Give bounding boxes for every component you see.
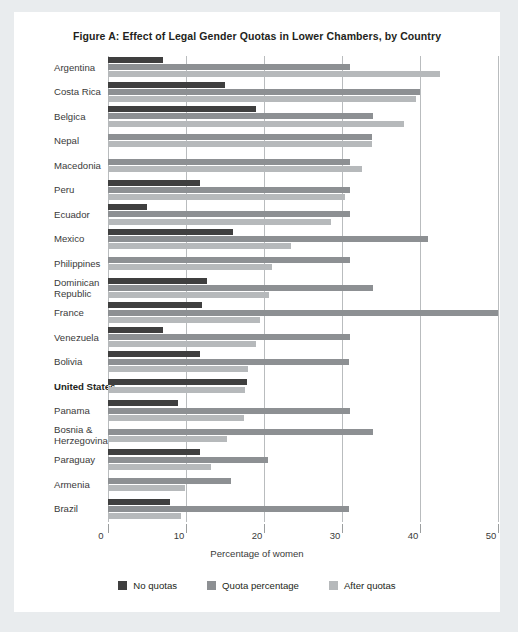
legend-swatch-icon	[207, 581, 216, 590]
bar-group	[108, 228, 498, 253]
bar-1	[108, 429, 373, 435]
bar-0	[108, 327, 163, 333]
bar-1	[108, 408, 350, 414]
bar-2	[108, 71, 440, 77]
bar-0	[108, 351, 200, 357]
bar-2	[108, 317, 260, 323]
bar-1	[108, 285, 373, 291]
bar-2	[108, 485, 185, 491]
bar-1	[108, 334, 350, 340]
bar-2	[108, 436, 227, 442]
bar-group	[108, 375, 498, 400]
bar-group	[108, 203, 498, 228]
bar-group	[108, 301, 498, 326]
tick-label-50: 50	[486, 530, 497, 541]
bar-group	[108, 277, 498, 302]
bar-1	[108, 211, 350, 217]
legend-label: No quotas	[133, 580, 177, 591]
bar-0	[108, 180, 200, 186]
bar-0	[108, 82, 225, 88]
x-axis-label: Percentage of women	[14, 548, 500, 559]
tick-label-10: 10	[174, 530, 185, 541]
bar-1	[108, 257, 350, 263]
bar-1	[108, 310, 498, 316]
category-labels: ArgentinaCosta RicaBelgicaNepalMacedonia…	[54, 56, 108, 522]
tick-mark-0	[108, 524, 109, 533]
bar-0	[108, 106, 256, 112]
legend-label: Quota percentage	[222, 580, 299, 591]
plot-area	[108, 56, 498, 522]
legend-label: After quotas	[344, 580, 396, 591]
bar-0	[108, 302, 202, 308]
bar-0	[108, 379, 247, 385]
bar-0	[108, 449, 200, 455]
bar-2	[108, 366, 248, 372]
chart-legend: No quotasQuota percentageAfter quotas	[14, 580, 500, 591]
bar-2	[108, 219, 331, 225]
bar-1	[108, 478, 231, 484]
legend-item-2[interactable]: After quotas	[329, 580, 396, 591]
bar-1	[108, 506, 349, 512]
bar-group	[108, 399, 498, 424]
bar-group	[108, 497, 498, 522]
gridline-50	[498, 56, 499, 522]
bar-group	[108, 154, 498, 179]
tick-label-40: 40	[408, 530, 419, 541]
bar-group	[108, 81, 498, 106]
bar-group	[108, 105, 498, 130]
bar-2	[108, 264, 272, 270]
bar-2	[108, 464, 211, 470]
bar-1	[108, 236, 428, 242]
tick-mark-30	[342, 524, 343, 533]
bar-2	[108, 415, 244, 421]
x-axis-ticks: 01020304050	[108, 524, 498, 540]
bar-1	[108, 113, 373, 119]
legend-swatch-icon	[118, 581, 127, 590]
bar-2	[108, 513, 181, 519]
bar-1	[108, 64, 350, 70]
bar-group	[108, 424, 498, 449]
tick-mark-50	[498, 524, 499, 533]
bar-2	[108, 141, 372, 147]
tick-label-30: 30	[330, 530, 341, 541]
legend-swatch-icon	[329, 581, 338, 590]
bar-group	[108, 473, 498, 498]
bar-group	[108, 130, 498, 155]
bar-0	[108, 499, 170, 505]
bar-0	[108, 204, 147, 210]
tick-label-0: 0	[98, 530, 103, 541]
bar-group	[108, 448, 498, 473]
bar-1	[108, 159, 350, 165]
tick-label-20: 20	[252, 530, 263, 541]
bar-2	[108, 292, 269, 298]
bar-2	[108, 387, 245, 393]
tick-mark-40	[420, 524, 421, 533]
bar-1	[108, 187, 350, 193]
tick-mark-10	[186, 524, 187, 533]
tick-mark-20	[264, 524, 265, 533]
bar-group	[108, 252, 498, 277]
bar-2	[108, 194, 345, 200]
bar-1	[108, 89, 420, 95]
bar-group	[108, 56, 498, 81]
chart-panel: Figure A: Effect of Legal Gender Quotas …	[14, 12, 500, 612]
bar-1	[108, 134, 372, 140]
legend-item-1[interactable]: Quota percentage	[207, 580, 299, 591]
bar-2	[108, 166, 362, 172]
chart-title: Figure A: Effect of Legal Gender Quotas …	[14, 30, 500, 42]
bar-2	[108, 121, 404, 127]
bar-0	[108, 400, 178, 406]
bar-2	[108, 341, 256, 347]
bar-1	[108, 457, 268, 463]
bar-0	[108, 278, 207, 284]
bar-2	[108, 96, 416, 102]
bar-0	[108, 229, 233, 235]
bar-0	[108, 57, 163, 63]
bar-2	[108, 243, 291, 249]
bar-1	[108, 359, 349, 365]
legend-item-0[interactable]: No quotas	[118, 580, 177, 591]
bar-group	[108, 350, 498, 375]
bar-group	[108, 326, 498, 351]
bar-group	[108, 179, 498, 204]
